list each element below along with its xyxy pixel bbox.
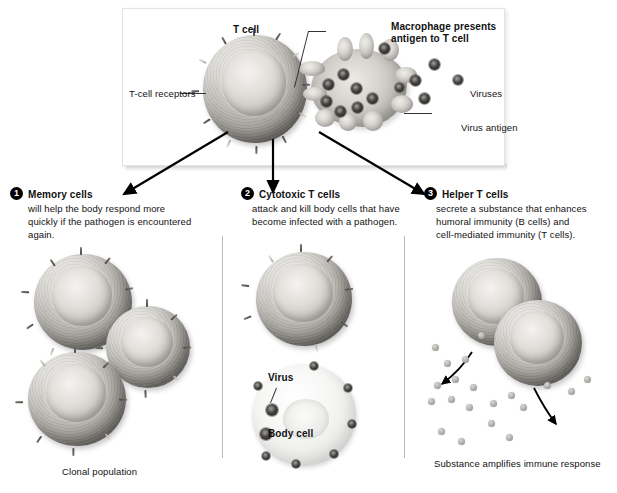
- memory-cell-illustration: [28, 352, 126, 446]
- cytokine-particle: [568, 388, 575, 395]
- virus-particle: [330, 450, 338, 458]
- cytokine-particle: [444, 360, 451, 367]
- memory-cells-text-line3: again.: [28, 229, 54, 241]
- column-divider-right: [404, 236, 405, 458]
- heading-cytotoxic-t-cells: Cytotoxic T cells: [259, 189, 340, 202]
- cytokine-particle: [508, 392, 515, 399]
- cytokine-particle: [488, 420, 495, 427]
- cytotoxic-text-line1: attack and kill body cells that have: [252, 203, 400, 215]
- caption-clonal-population: Clonal population: [62, 466, 137, 478]
- cytokine-particle: [462, 356, 469, 363]
- cytokine-particle: [452, 376, 459, 383]
- badge-number-1: 1: [10, 187, 23, 200]
- virus-particle: [266, 404, 278, 416]
- caption-substance-amplifies: Substance amplifies immune response: [434, 458, 601, 470]
- cytokine-particle: [438, 428, 445, 435]
- virus-particle: [292, 460, 300, 468]
- cytotoxic-t-cell-illustration: [256, 252, 352, 346]
- helper-text-line2: humoral immunity (B cells) and: [436, 216, 569, 228]
- label-body-cell-inline: Body cell: [268, 428, 313, 441]
- diagram-canvas: T cell Macrophage presents antigen to T …: [0, 0, 617, 493]
- badge-number-3: 3: [424, 187, 437, 200]
- cytokine-particle: [458, 438, 465, 445]
- helper-text-line1: secrete a substance that enhances: [436, 203, 587, 215]
- cytokine-particle: [448, 396, 455, 403]
- cytokine-particle: [506, 434, 513, 441]
- cytokine-particle: [490, 400, 497, 407]
- secretion-arrow-right: [534, 388, 556, 424]
- helper-text-line3: cell-mediated immunity (T cells).: [436, 229, 575, 241]
- cytokine-particle: [470, 384, 477, 391]
- receptor-spike-icon: [21, 291, 29, 294]
- heading-memory-cells: Memory cells: [28, 189, 93, 202]
- cytokine-particle: [428, 398, 435, 405]
- cytokine-particle: [432, 344, 439, 351]
- virus-particle: [344, 384, 352, 392]
- receptor-spike-icon: [95, 347, 103, 350]
- label-virus-inline: Virus: [268, 372, 293, 385]
- column-divider-left: [222, 236, 223, 458]
- cytokine-particle: [478, 332, 485, 339]
- cytokine-particle: [520, 404, 527, 411]
- memory-cells-text-line2: quickly if the pathogen is encountered: [28, 216, 191, 228]
- arrow-to-memory-cells: [124, 132, 228, 194]
- memory-cells-text-line1: will help the body respond more: [28, 203, 165, 215]
- virus-particle: [262, 452, 270, 460]
- receptor-spike-icon: [72, 448, 74, 456]
- cytokine-particle: [584, 376, 591, 383]
- cell-nucleus: [273, 264, 333, 322]
- virus-particle: [348, 420, 356, 428]
- cytotoxic-text-line2: become infected with a pathogen.: [252, 216, 397, 228]
- cytokine-particle: [544, 382, 551, 389]
- cytokine-particle: [466, 404, 473, 411]
- badge-number-2: 2: [241, 187, 254, 200]
- virus-particle: [310, 362, 318, 370]
- arrow-to-helper-t-cells: [319, 132, 424, 194]
- cell-nucleus: [52, 266, 113, 326]
- receptor-spike-icon: [15, 401, 23, 403]
- helper-t-cell-illustration: [494, 300, 582, 386]
- cytokine-particle: [434, 382, 441, 389]
- receptor-spike-icon: [144, 390, 147, 398]
- heading-helper-t-cells: Helper T cells: [442, 189, 508, 202]
- virus-particle: [254, 382, 262, 390]
